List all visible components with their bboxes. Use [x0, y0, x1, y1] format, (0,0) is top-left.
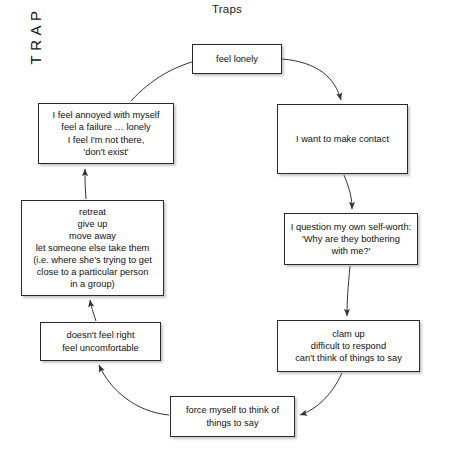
node-doesnt-feel-right-text: doesn't feel right feel uncomfortable — [41, 329, 160, 353]
trap-center-label-text: TRAP — [26, 6, 43, 64]
edge-retreat-to-annoyed — [85, 169, 86, 199]
node-feel-annoyed[interactable]: I feel annoyed with myself feel a failur… — [38, 103, 174, 164]
edge-clamup-to-force — [300, 373, 342, 415]
node-clam-up[interactable]: clam up difficult to respond can't think… — [277, 320, 420, 372]
node-feel-lonely[interactable]: feel lonely — [192, 44, 282, 74]
diagram-canvas: Traps TRAP feel lonely I want to make co… — [0, 0, 454, 458]
node-retreat-text: retreat give up move away let someone el… — [22, 206, 163, 291]
edge-lonely-to-contact — [282, 59, 341, 100]
edge-force-to-doesnt — [99, 365, 169, 415]
node-make-contact-text: I want to make contact — [278, 133, 407, 145]
node-make-contact[interactable]: I want to make contact — [277, 104, 408, 174]
node-clam-up-text: clam up difficult to respond can't think… — [278, 328, 419, 364]
edge-contact-to-selfworth — [344, 175, 352, 209]
edge-selfworth-to-clamup — [347, 266, 350, 316]
page-title: Traps — [0, 3, 454, 15]
node-question-self-worth[interactable]: I question my own self-worth: 'Why are t… — [284, 213, 418, 265]
node-force-myself-text: force myself to think of things to say — [171, 404, 294, 428]
node-feel-annoyed-text: I feel annoyed with myself feel a failur… — [39, 109, 173, 157]
edge-doesnt-to-retreat — [90, 300, 96, 321]
node-doesnt-feel-right[interactable]: doesn't feel right feel uncomfortable — [40, 322, 161, 361]
node-question-self-worth-text: I question my own self-worth: 'Why are t… — [285, 221, 417, 257]
node-feel-lonely-text: feel lonely — [193, 53, 281, 65]
node-retreat[interactable]: retreat give up move away let someone el… — [21, 200, 164, 296]
node-force-myself[interactable]: force myself to think of things to say — [170, 396, 295, 437]
